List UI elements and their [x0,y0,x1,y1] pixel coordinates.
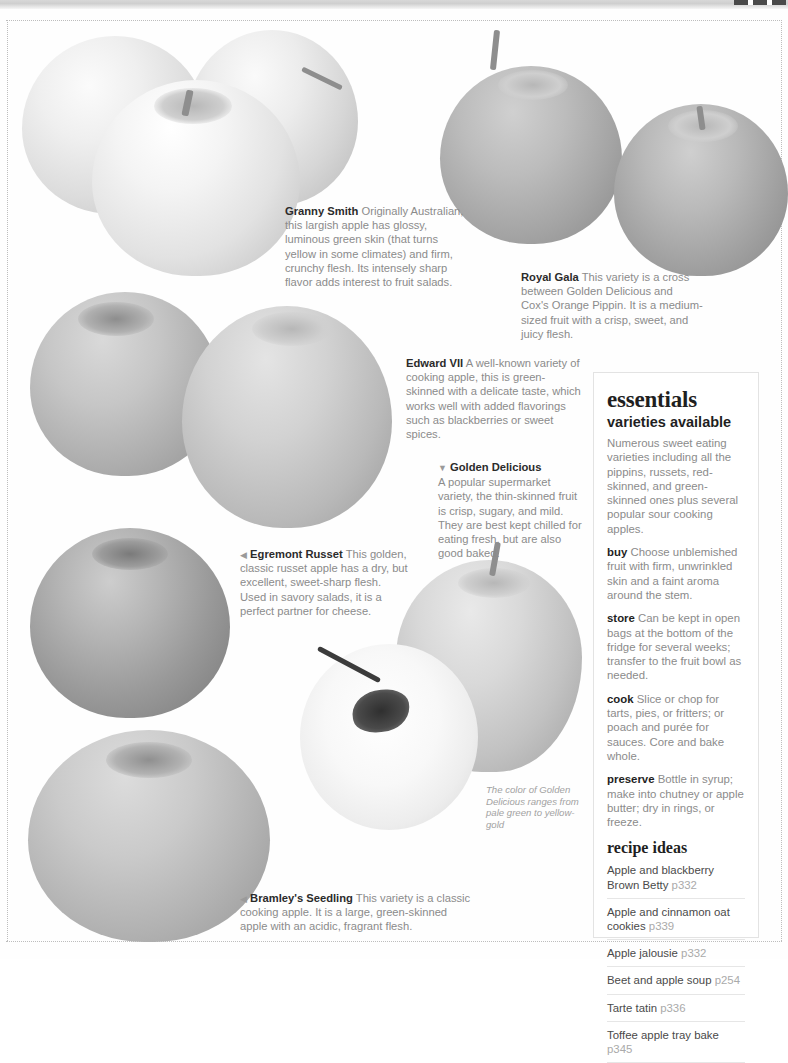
recipe-page: p254 [715,974,740,986]
scanner-edge-strip [0,0,788,9]
triangle-left-icon: ◀ [240,550,247,560]
caption-royal-gala: Royal Gala This variety is a cross betwe… [521,270,703,341]
triangle-left-icon: ◀ [240,894,247,904]
recipe-name: Apple and blackberry Brown Betty [607,864,714,890]
caption-title: Egremont Russet [250,548,343,560]
recipe-name: Beet and apple soup [607,974,712,986]
entry-label: preserve [607,773,655,785]
caption-heading-row: ▼ Golden Delicious [438,460,586,474]
trim-border-top [6,20,782,21]
entry-label: buy [607,546,627,558]
caption-title: Royal Gala [521,271,579,283]
recipe-ideas-title: recipe ideas [607,838,745,857]
list-item[interactable]: Beet and apple soup p254 [607,966,745,993]
list-item[interactable]: Apple and cinnamon oat cookies p339 [607,898,745,939]
trim-border-left [7,20,8,941]
caption-edward-vii: Edward VII A well-known variety of cooki… [406,356,581,441]
list-item[interactable]: Apple and blackberry Brown Betty p332 [607,863,745,897]
recipe-ideas-list: Apple and blackberry Brown Betty p332 Ap… [607,863,745,1062]
caption-bramleys-seedling: ◀ Bramley's Seedling This variety is a c… [240,891,472,934]
list-item[interactable]: Apple jalousie p332 [607,939,745,966]
recipe-page: p345 [607,1043,632,1055]
list-item[interactable]: Tarte tatin p336 [607,994,745,1021]
recipe-page: p332 [672,879,697,891]
apple-royal-gala-right [614,104,788,276]
apple-stem-well [252,312,332,346]
essentials-entry-cook: cook Slice or chop for tarts, pies, or f… [607,692,745,763]
apple-bramleys-seedling [28,730,270,942]
apple-edward-vii-right [182,306,392,528]
triangle-down-icon: ▼ [438,463,447,473]
entry-label: cook [607,693,634,705]
caption-title: Edward VII [406,357,463,369]
recipe-name: Toffee apple tray bake [607,1029,719,1041]
essentials-entry-store: store Can be kept in open bags at the bo… [607,611,745,682]
apple-egremont-russet [30,528,230,718]
entry-text: Choose unblemished fruit with firm, unwr… [607,546,737,601]
apple-golden-delicious-halved [300,644,478,830]
caption-granny-smith: Granny Smith Originally Australian, this… [285,204,465,289]
recipe-page: p339 [649,920,674,932]
list-item[interactable]: Toffee apple tray bake p345 [607,1021,745,1062]
essentials-entry-buy: buy Choose unblemished fruit with firm, … [607,545,745,602]
essentials-title: essentials [607,387,745,412]
essentials-entry-preserve: preserve Bottle in syrup; make into chut… [607,772,745,829]
apple-stem-well [106,742,192,778]
caption-body: A popular supermarket variety, the thin-… [438,476,582,559]
caption-title: Granny Smith [285,205,358,217]
caption-body: Originally Australian, this largish appl… [285,205,463,288]
essentials-intro: Numerous sweet eating varieties includin… [607,436,745,536]
caption-title: Bramley's Seedling [250,892,353,904]
caption-body: A well-known variety of cooking apple, t… [406,357,581,440]
recipe-name: Apple jalousie [607,947,678,959]
caption-golden-delicious: ▼ Golden Delicious A popular supermarket… [438,460,586,560]
apple-royal-gala-left [440,66,622,244]
apple-stem [490,30,500,70]
apple-stem-well [498,70,568,100]
apple-granny-smith-front [92,80,300,276]
caption-title: Golden Delicious [450,461,541,473]
apple-stem-well [78,302,154,336]
caption-egremont-russet: ◀ Egremont Russet This golden, classic r… [240,547,410,618]
apple-stem-well [92,538,168,570]
recipe-page: p332 [681,947,706,959]
recipe-name: Tarte tatin [607,1002,657,1014]
essentials-subtitle: varieties available [607,414,745,431]
recipe-page: p336 [660,1002,685,1014]
photo-note-golden-delicious: The color of Golden Delicious ranges fro… [486,784,586,830]
entry-label: store [607,612,635,624]
essentials-panel: essentials varieties available Numerous … [593,372,759,938]
